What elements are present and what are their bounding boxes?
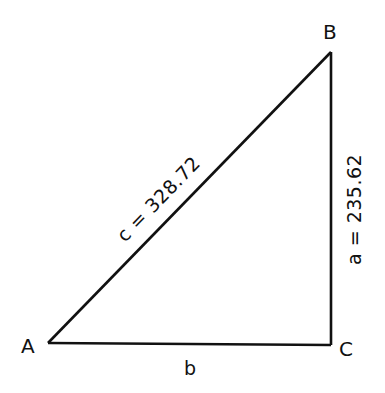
vertex-label-a: A <box>21 334 35 358</box>
side-label-a: a = 235.62 <box>343 154 365 265</box>
vertex-label-c: C <box>339 337 353 361</box>
side-b-base <box>48 343 331 345</box>
right-triangle-diagram: A B C b a = 235.62 c = 328.72 <box>0 0 385 393</box>
side-label-c: c = 328.72 <box>112 152 204 246</box>
side-label-b: b <box>184 357 197 379</box>
vertex-label-b: B <box>323 20 337 44</box>
side-c-hypotenuse <box>48 52 331 343</box>
